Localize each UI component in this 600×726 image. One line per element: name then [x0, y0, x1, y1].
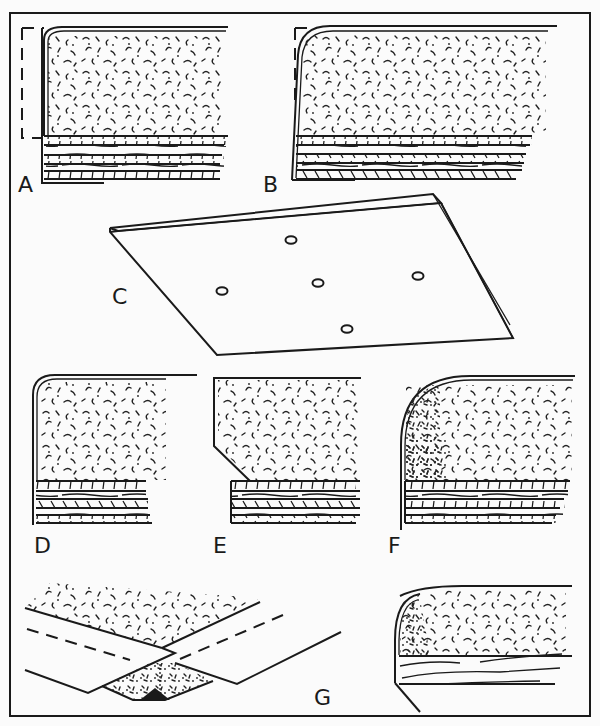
panel-label-a: A — [18, 172, 33, 197]
panel-label-g: G — [314, 685, 331, 710]
hole — [342, 325, 353, 333]
hole — [313, 279, 324, 287]
panel-f: F — [388, 376, 575, 558]
panel-e: E — [213, 378, 361, 558]
figure-canvas: A B C — [0, 0, 600, 726]
panel-g2 — [395, 586, 572, 712]
panel-label-f: F — [388, 533, 401, 558]
hole — [217, 287, 228, 295]
panel-label-d: D — [34, 533, 51, 558]
panel-g: G — [25, 583, 341, 710]
panel-label-b: B — [263, 172, 278, 197]
hole — [413, 272, 424, 280]
panel-d: D — [33, 375, 197, 558]
hole — [286, 236, 297, 244]
panel-label-e: E — [213, 533, 227, 558]
panel-c: C — [110, 194, 513, 355]
panel-b: B — [263, 26, 557, 197]
panel-a: A — [18, 27, 228, 197]
panel-label-c: C — [112, 284, 127, 309]
